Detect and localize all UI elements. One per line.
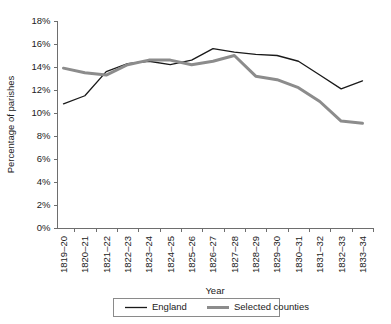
legend: EnglandSelected counties xyxy=(114,299,310,317)
x-tick-labels: 1819–201820–211821–221822–231823–241824–… xyxy=(58,236,368,273)
legend-label-selected-counties: Selected counties xyxy=(234,301,309,312)
x-tick-label: 1819–20 xyxy=(58,236,69,273)
y-tick-label: 4% xyxy=(37,176,51,187)
y-tick-label: 16% xyxy=(31,38,51,49)
y-tick-label: 12% xyxy=(31,84,51,95)
x-tick-label: 1821–22 xyxy=(101,236,112,273)
legend-items: EnglandSelected counties xyxy=(125,301,309,312)
x-tick-label: 1832–33 xyxy=(336,236,347,273)
x-tick-label: 1829–30 xyxy=(271,236,282,273)
x-tick-label: 1823–24 xyxy=(143,236,154,273)
x-axis-title: Year xyxy=(205,285,224,296)
series-lines-group xyxy=(64,49,363,124)
y-tick-marks xyxy=(54,22,58,229)
y-tick-label: 18% xyxy=(31,15,51,26)
x-tick-label: 1828–29 xyxy=(250,236,261,273)
x-tick-label: 1830–31 xyxy=(293,236,304,273)
chart-canvas: 0%2%4%6%8%10%12%14%16%18% Percentage of … xyxy=(0,0,391,324)
x-axis-group: 1819–201820–211821–221822–231823–241824–… xyxy=(58,228,374,296)
y-tick-label: 2% xyxy=(37,199,51,210)
y-axis-title: Percentage of parishes xyxy=(5,75,16,173)
x-tick-label: 1826–27 xyxy=(207,236,218,273)
x-tick-label: 1825–26 xyxy=(186,236,197,273)
x-tick-label: 1827–28 xyxy=(229,236,240,273)
line-chart: 0%2%4%6%8%10%12%14%16%18% Percentage of … xyxy=(0,0,391,324)
x-tick-label: 1820–21 xyxy=(79,236,90,273)
x-tick-label: 1824–25 xyxy=(165,236,176,273)
y-tick-labels: 0%2%4%6%8%10%12%14%16%18% xyxy=(31,15,51,233)
y-tick-label: 0% xyxy=(37,222,51,233)
x-tick-label: 1822–23 xyxy=(122,236,133,273)
y-tick-label: 10% xyxy=(31,107,51,118)
series-line-selected-counties xyxy=(64,56,363,124)
series-line-england xyxy=(64,49,363,104)
y-tick-label: 8% xyxy=(37,130,51,141)
legend-label-england: England xyxy=(152,301,187,312)
y-axis-group: 0%2%4%6%8%10%12%14%16%18% Percentage of … xyxy=(5,15,58,233)
x-tick-label: 1831–32 xyxy=(314,236,325,273)
y-tick-label: 14% xyxy=(31,61,51,72)
x-tick-label: 1833–34 xyxy=(357,236,368,273)
y-tick-label: 6% xyxy=(37,153,51,164)
